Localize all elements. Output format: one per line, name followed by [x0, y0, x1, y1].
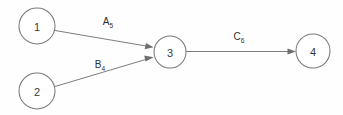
node-2-label: 2 — [34, 86, 40, 98]
edge-2-3[interactable]: B4 — [55, 55, 154, 86]
node-1-label: 1 — [34, 21, 40, 33]
edge-1-3[interactable]: A5 — [55, 16, 154, 49]
node-3-label: 3 — [167, 47, 173, 59]
node-4-label: 4 — [310, 46, 316, 58]
edge-1-3-arrowhead — [145, 43, 154, 49]
edge-2-3-arrowhead — [144, 55, 153, 61]
node-1[interactable]: 1 — [19, 8, 55, 44]
edge-1-3-label-subscript: 5 — [110, 22, 114, 29]
network-diagram: A5 B4 C6 1 2 — [0, 0, 343, 115]
node-2[interactable]: 2 — [19, 73, 55, 109]
edge-3-4-label-base: C — [234, 31, 241, 42]
node-3[interactable]: 3 — [154, 36, 186, 68]
edge-1-3-line — [55, 31, 149, 47]
edge-2-3-line — [55, 59, 149, 87]
edge-1-3-label: A5 — [103, 16, 114, 29]
edge-2-3-label: B4 — [95, 59, 106, 72]
diagram-canvas: A5 B4 C6 1 2 — [0, 0, 343, 115]
edge-2-3-label-subscript: 4 — [102, 65, 106, 72]
edge-3-4-label: C6 — [234, 31, 245, 44]
node-4[interactable]: 4 — [296, 34, 330, 68]
edge-3-4[interactable]: C6 — [186, 31, 296, 55]
edge-3-4-arrowhead — [288, 48, 297, 54]
edge-3-4-label-subscript: 6 — [241, 37, 245, 44]
